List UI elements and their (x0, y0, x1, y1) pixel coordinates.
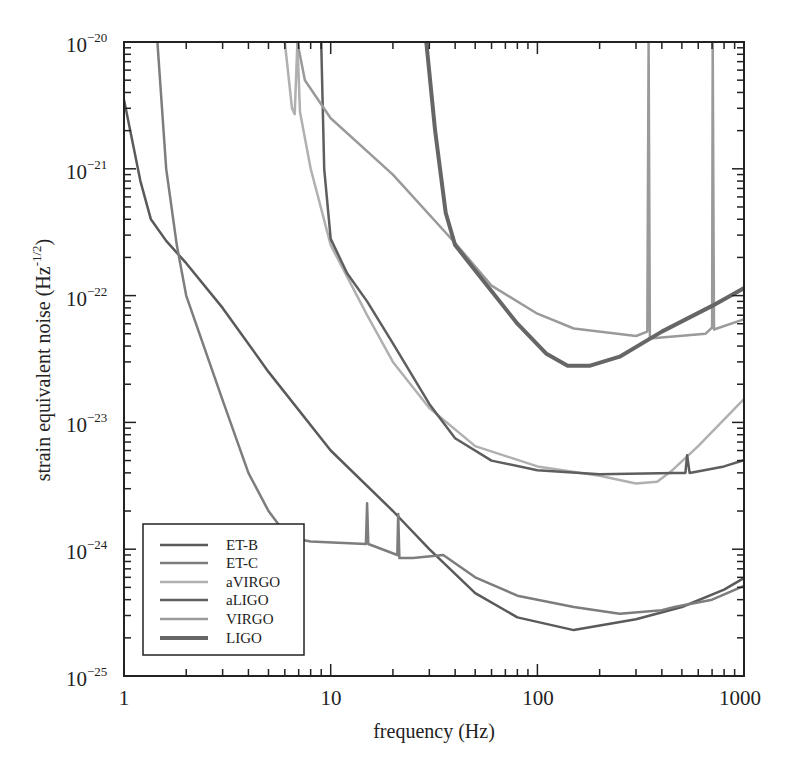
y-tick-label-1e-25: 10−25 (66, 664, 107, 691)
y-tick-label-1e-20: 10−20 (66, 30, 107, 57)
curve-aligo (321, 42, 753, 474)
legend-label: aVIRGO (226, 574, 280, 590)
x-axis-label: frequency (Hz) (373, 720, 495, 743)
svg-text:10−24: 10−24 (66, 537, 108, 564)
y-tick-label-1e-24: 10−24 (66, 537, 108, 564)
curve-virgo (297, 42, 752, 338)
y-tick-label-1e-21: 10−21 (66, 157, 107, 184)
legend: ET-BET-CaVIRGOaLIGOVIRGOLIGO (143, 524, 304, 655)
svg-text:10−25: 10−25 (66, 664, 107, 691)
x-tick-label-10: 10 (321, 686, 342, 710)
y-axis-label: strain equivalent noise (Hz-1/2) (29, 239, 55, 482)
x-tick-label-1: 1 (119, 686, 130, 710)
svg-text:10−23: 10−23 (66, 410, 107, 437)
x-tick-label-1000: 1000 (719, 686, 761, 710)
legend-label: aLIGO (226, 592, 269, 608)
x-tick-label-100: 100 (522, 686, 554, 710)
y-tick-label-1e-23: 10−23 (66, 410, 107, 437)
legend-label: VIRGO (226, 611, 274, 627)
legend-label: LIGO (226, 630, 262, 646)
legend-label: ET-C (226, 555, 258, 571)
curve-avirgo (285, 42, 753, 484)
svg-text:10−20: 10−20 (66, 30, 107, 57)
y-tick-label-1e-22: 10−22 (66, 284, 107, 311)
svg-text:10−21: 10−21 (66, 157, 107, 184)
noise-curve-chart: 1 10 100 1000 frequency (Hz) 10−20 10−21… (0, 0, 790, 768)
svg-text:10−22: 10−22 (66, 284, 107, 311)
legend-label: ET-B (226, 537, 258, 553)
curve-ligo (426, 42, 752, 366)
